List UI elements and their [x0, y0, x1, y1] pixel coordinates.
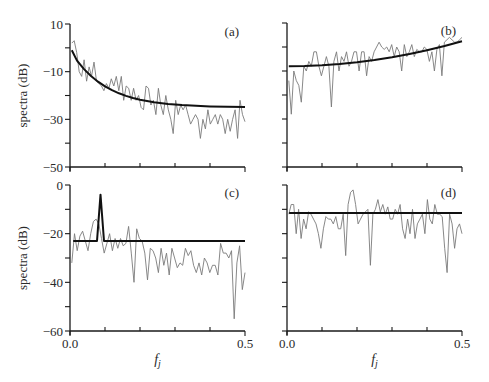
panel-label: (c) [225, 185, 239, 200]
periodogram-line [289, 190, 462, 273]
panel-d: 0.00.5(d)fj [279, 185, 470, 369]
figure-canvas: 10−10−30−50(a)spectra (dB) (b) 0−20−40−6… [0, 0, 489, 382]
x-tick-label: 0.0 [279, 336, 295, 351]
fitted-spectrum-line [73, 195, 245, 241]
fitted-spectrum-line [72, 50, 245, 107]
x-tick-label: 0.5 [454, 336, 470, 351]
plot-area [72, 195, 245, 319]
x-axis-title-subscript: j [156, 358, 161, 369]
x-axis-title: fj [371, 352, 378, 369]
y-tick-label: −30 [43, 112, 63, 127]
plot-area [289, 37, 462, 114]
x-tick-label: 0.0 [62, 336, 78, 351]
panel-label: (d) [441, 185, 456, 200]
y-tick-label: −20 [43, 226, 63, 241]
x-tick-label: 0.5 [237, 336, 253, 351]
panel-label: (b) [441, 23, 456, 38]
x-axis-title: fj [154, 352, 161, 369]
y-tick-label: −40 [43, 275, 63, 290]
y-tick-label: 0 [57, 178, 64, 193]
panel-label: (a) [225, 24, 239, 39]
plot-area [289, 190, 462, 273]
y-tick-label: 10 [50, 17, 63, 32]
y-tick-label: −50 [43, 160, 63, 175]
y-axis-title: spectra (dB) [15, 64, 30, 128]
y-tick-label: −60 [43, 324, 63, 339]
x-axis-title-subscript: j [373, 358, 378, 369]
y-axis-title: spectra (dB) [15, 226, 30, 290]
periodogram-line [72, 41, 245, 139]
panel-b: (b) [282, 23, 462, 172]
y-tick-label: −10 [43, 64, 63, 79]
panel-c: 0−20−40−600.00.5(c)spectra (dB)fj [15, 178, 253, 370]
plot-area [72, 41, 245, 139]
panel-a: 10−10−30−50(a)spectra (dB) [15, 17, 245, 175]
